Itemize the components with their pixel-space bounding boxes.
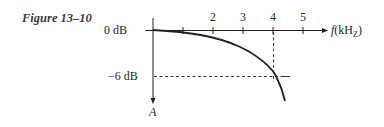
- x-axis-label: f(kHZ): [331, 23, 362, 39]
- attenuation-chart: [0, 0, 384, 127]
- tick-label-4: 4: [270, 10, 276, 25]
- zero-db-label: 0 dB: [104, 23, 127, 38]
- tick-label-3: 3: [240, 10, 246, 25]
- tick-label-2: 2: [210, 10, 216, 25]
- tick-label-5: 5: [300, 10, 306, 25]
- response-curve: [153, 30, 285, 101]
- x-axis-unit: (kH: [334, 23, 353, 37]
- y-axis-label: A: [149, 105, 156, 120]
- y-axis-arrow-icon: [151, 98, 156, 104]
- x-axis-unit-close: ): [358, 23, 362, 37]
- x-axis-arrow-icon: [322, 28, 328, 33]
- minus6db-label: −6 dB: [108, 69, 138, 84]
